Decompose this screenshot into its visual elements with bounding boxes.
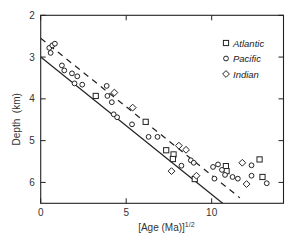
circle-marker (75, 74, 80, 79)
x-tick-label: 10 (206, 207, 218, 218)
legend-label: Atlantic (232, 38, 264, 49)
y-axis-label: Depth (km) (11, 93, 22, 145)
circle-marker (235, 176, 240, 181)
square-icon (223, 40, 228, 45)
circle-marker (249, 173, 254, 178)
y-tick-label: 6 (29, 177, 35, 188)
circle-marker (62, 68, 67, 73)
depth-age-chart: 051023456 [Age (Ma)]1/2 Depth (km) Atlan… (0, 0, 299, 245)
y-tick-label: 3 (29, 52, 35, 63)
circle-marker (212, 176, 217, 181)
legend-item-pacific: Pacific (224, 53, 262, 64)
y-tick-label: 5 (29, 135, 35, 146)
circle-marker (115, 115, 120, 120)
circle-marker (109, 100, 114, 105)
x-axis-label-main: [Age (Ma)] (138, 222, 185, 233)
circle-marker (48, 51, 53, 56)
x-axis-label-superscript: 1/2 (185, 221, 195, 228)
circle-marker (60, 63, 65, 68)
circle-marker (191, 160, 196, 165)
circle-marker (104, 84, 109, 89)
diamond-marker (243, 181, 250, 188)
legend-label: Pacific (233, 53, 261, 64)
circle-marker (130, 122, 135, 127)
fit-lines (41, 38, 240, 203)
diamond-marker (239, 159, 246, 166)
circle-marker (216, 162, 221, 167)
square-marker (143, 119, 148, 124)
square-marker (257, 157, 262, 162)
legend: AtlanticPacificIndian (223, 38, 265, 80)
legend-item-indian: Indian (223, 69, 259, 80)
x-tick-label: 0 (38, 207, 44, 218)
circle-marker (211, 165, 216, 170)
circle-marker (223, 172, 228, 177)
circle-marker (72, 81, 77, 86)
circle-marker (179, 163, 184, 168)
diamond-marker (175, 142, 182, 149)
diamond-marker (168, 168, 175, 175)
circle-marker (264, 181, 269, 186)
circle-marker (220, 167, 225, 172)
diamond-marker (183, 146, 190, 153)
circle-marker (80, 82, 85, 87)
x-tick-label: 5 (123, 207, 129, 218)
legend-item-atlantic: Atlantic (223, 38, 264, 49)
circle-marker (70, 71, 75, 76)
dashed-fit-line (41, 38, 240, 198)
legend-label: Indian (233, 69, 259, 80)
circle-marker (230, 175, 235, 180)
square-marker (93, 93, 98, 98)
circle-marker (105, 94, 110, 99)
circle-marker (146, 134, 151, 139)
circle-marker (249, 163, 254, 168)
circle-marker (155, 134, 160, 139)
x-axis-label: [Age (Ma)]1/2 (138, 221, 195, 233)
diamond-icon (223, 71, 230, 78)
y-tick-label: 2 (29, 10, 35, 21)
y-tick-label: 4 (29, 93, 35, 104)
square-marker (170, 156, 175, 161)
square-marker (260, 174, 265, 179)
square-marker (164, 148, 169, 153)
circle-marker (52, 41, 57, 46)
circle-icon (224, 56, 229, 61)
